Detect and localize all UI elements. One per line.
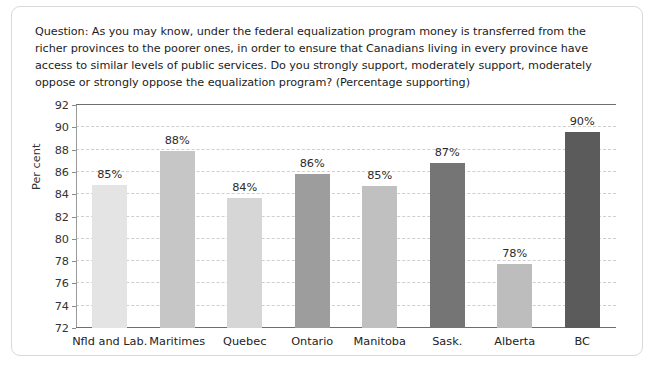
x-axis-category-label: Alberta (494, 335, 535, 348)
tick-mark (72, 261, 76, 262)
y-tick-label: 76 (55, 277, 69, 290)
bar: 90%BC (565, 132, 600, 328)
bar: 87%Sask. (430, 163, 465, 328)
tick-mark (72, 194, 76, 195)
bar-value-label: 90% (570, 115, 595, 128)
bar: 78%Alberta (497, 264, 532, 328)
bar-value-label: 87% (435, 146, 460, 159)
y-tick-label: 86 (55, 165, 69, 178)
gridline (76, 149, 616, 150)
gridline (76, 216, 616, 217)
x-axis-category-label: Ontario (291, 335, 333, 348)
bar: 88%Maritimes (160, 151, 195, 328)
tick-mark (72, 127, 76, 128)
tick-mark (72, 150, 76, 151)
y-tick-label: 90 (55, 121, 69, 134)
gridline (76, 104, 616, 105)
x-axis-category-label: Nfld and Lab. (72, 335, 147, 348)
y-axis-line (76, 105, 77, 328)
y-tick-label: 82 (55, 210, 69, 223)
tick-mark (72, 306, 76, 307)
y-tick-label: 74 (55, 299, 69, 312)
bar: 84%Quebec (227, 198, 262, 328)
gridline (76, 305, 616, 306)
y-tick-label: 80 (55, 232, 69, 245)
x-axis-category-label: Quebec (223, 335, 266, 348)
y-tick-label: 72 (55, 322, 69, 335)
y-tick-label: 92 (55, 99, 69, 112)
tick-mark (72, 172, 76, 173)
gridline (76, 238, 616, 239)
x-axis-category-label: Manitoba (354, 335, 406, 348)
bar: 86%Ontario (295, 174, 330, 328)
y-tick-label: 84 (55, 188, 69, 201)
bar: 85%Manitoba (362, 186, 397, 328)
tick-mark (72, 283, 76, 284)
tick-mark (72, 239, 76, 240)
y-axis-label: Per cent (30, 144, 43, 190)
gridline (76, 282, 616, 283)
gridline (76, 260, 616, 261)
tick-mark (72, 217, 76, 218)
bar-value-label: 88% (165, 134, 190, 147)
bar-value-label: 85% (367, 169, 392, 182)
gridline (76, 171, 616, 172)
gridline (76, 126, 616, 127)
question-text: Question: As you may know, under the fed… (35, 23, 615, 91)
tick-mark (72, 328, 76, 329)
y-tick-label: 88 (55, 143, 69, 156)
plot-area: 7274767880828486889092 85%Nfld and Lab.8… (76, 105, 616, 328)
bar: 85%Nfld and Lab. (92, 185, 127, 328)
gridline (76, 193, 616, 194)
x-axis-line (76, 327, 616, 328)
bar-value-label: 86% (300, 157, 325, 170)
tick-mark (72, 105, 76, 106)
y-tick-label: 78 (55, 255, 69, 268)
x-axis-category-label: Sask. (432, 335, 462, 348)
bar-value-label: 84% (232, 181, 257, 194)
x-axis-category-label: Maritimes (149, 335, 205, 348)
bar-value-label: 78% (502, 247, 527, 260)
bar-value-label: 85% (97, 168, 122, 181)
x-axis-category-label: BC (575, 335, 590, 348)
chart-figure: Question: As you may know, under the fed… (11, 6, 643, 356)
